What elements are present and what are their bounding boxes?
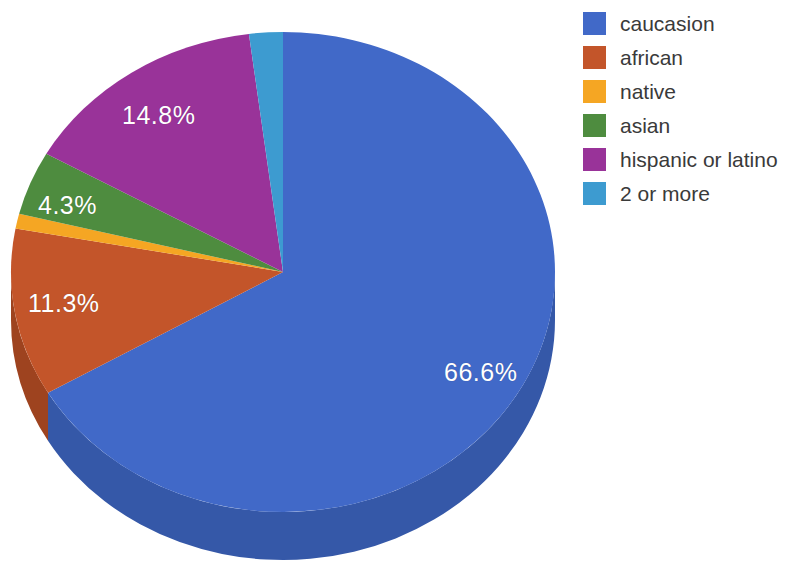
legend-item-native[interactable]: native: [583, 74, 805, 108]
legend-swatch-african: [583, 46, 606, 69]
pie-chart-page: 66.6% 11.3% 4.3% 14.8% caucasion african…: [0, 0, 805, 578]
legend-item-asian[interactable]: asian: [583, 108, 805, 142]
legend-swatch-caucasion: [583, 12, 606, 35]
legend-swatch-2-or-more: [583, 182, 606, 205]
legend-swatch-asian: [583, 114, 606, 137]
pie-top-faces: [11, 32, 555, 512]
pie-chart-svg: [0, 0, 570, 578]
legend-label-native: native: [620, 81, 676, 102]
legend-label-african: african: [620, 47, 683, 68]
legend-item-hispanic-or-latino[interactable]: hispanic or latino: [583, 142, 805, 176]
legend-swatch-hispanic-or-latino: [583, 148, 606, 171]
legend-swatch-native: [583, 80, 606, 103]
legend: caucasion african native asian hispanic …: [583, 6, 805, 210]
pie-chart: 66.6% 11.3% 4.3% 14.8%: [0, 0, 570, 578]
legend-item-african[interactable]: african: [583, 40, 805, 74]
legend-label-hispanic-or-latino: hispanic or latino: [620, 149, 778, 170]
legend-item-2-or-more[interactable]: 2 or more: [583, 176, 805, 210]
legend-label-asian: asian: [620, 115, 670, 136]
legend-item-caucasion[interactable]: caucasion: [583, 6, 805, 40]
legend-label-caucasion: caucasion: [620, 13, 715, 34]
legend-label-2-or-more: 2 or more: [620, 183, 710, 204]
